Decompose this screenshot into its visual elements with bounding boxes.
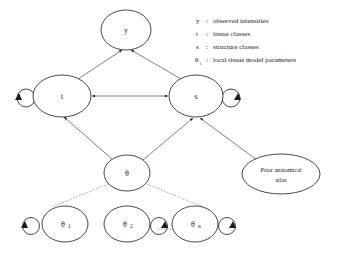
node-theta1[interactable]: θ 1 — [42, 206, 88, 242]
legend-symbol-t: t — [196, 30, 198, 38]
legend-item-theta-i: θ i : local tissue model parameters — [195, 56, 296, 66]
node-s[interactable]: s — [169, 75, 223, 117]
legend-item-s: s : structure classes — [196, 43, 259, 51]
node-theta-label: θ — [125, 169, 129, 178]
node-s-label: s — [194, 92, 197, 101]
legend-separator-s: : — [206, 43, 208, 51]
legend-separator-t: : — [206, 30, 208, 38]
node-thetan-subscript: n — [198, 223, 201, 229]
legend-description-theta: local tissue model parameters — [213, 56, 296, 64]
node-prior-anatomical-atlas[interactable]: Prior anatomical atlas — [242, 154, 320, 194]
edge-theta-to-theta1 — [52, 184, 108, 207]
node-t[interactable]: t — [33, 75, 91, 117]
edge-theta-to-s — [143, 118, 193, 160]
node-theta2-label: θ — [123, 220, 127, 229]
self-loop-theta1-arrowhead — [21, 221, 28, 228]
legend-description-t: tissue classes — [213, 30, 250, 38]
node-theta2-subscript: 2 — [130, 223, 133, 229]
node-theta2[interactable]: θ 2 — [104, 206, 150, 242]
graphical-model-svg: y t s θ θ 1 θ 2 θ n — [0, 0, 338, 254]
diagram-canvas: y t s θ θ 1 θ 2 θ n — [0, 0, 338, 254]
legend-description-y: observed intensities — [213, 17, 269, 25]
edge-theta-to-t — [64, 117, 112, 159]
edge-theta-to-thetan — [147, 184, 203, 207]
legend-symbol-y: y — [196, 17, 200, 25]
edge-t-to-y — [78, 50, 122, 79]
node-atlas-label-line1: Prior anatomical — [260, 166, 301, 173]
node-theta2-ellipse[interactable] — [104, 206, 150, 242]
node-atlas-label-line2: atlas — [275, 176, 287, 183]
legend-description-s: structure classes — [213, 43, 259, 51]
node-thetan-ellipse[interactable] — [172, 206, 218, 242]
legend-symbol-theta-subscript: i — [200, 61, 202, 66]
node-thetan-label: θ — [191, 220, 195, 229]
legend-separator-theta: : — [206, 56, 208, 64]
node-theta1-subscript: 1 — [68, 223, 71, 229]
node-theta[interactable]: θ — [104, 155, 150, 191]
node-theta1-label: θ — [61, 220, 65, 229]
edge-atlas-to-s — [200, 118, 257, 160]
legend-separator-y: : — [206, 17, 208, 25]
node-theta1-ellipse[interactable] — [42, 206, 88, 242]
legend-symbol-theta: θ — [195, 56, 199, 64]
node-thetan[interactable]: θ n — [172, 206, 218, 242]
edge-s-to-y — [131, 50, 181, 79]
node-y[interactable]: y — [101, 10, 151, 50]
node-atlas-ellipse[interactable] — [242, 154, 320, 194]
self-loop-t-arrowhead — [15, 93, 22, 100]
node-y-label: y — [124, 26, 128, 35]
legend: y : observed intensities t : tissue clas… — [195, 17, 296, 66]
edge-group — [52, 50, 257, 229]
legend-symbol-s: s — [196, 43, 199, 51]
legend-item-y: y : observed intensities — [196, 17, 269, 25]
legend-item-t: t : tissue classes — [196, 30, 250, 38]
